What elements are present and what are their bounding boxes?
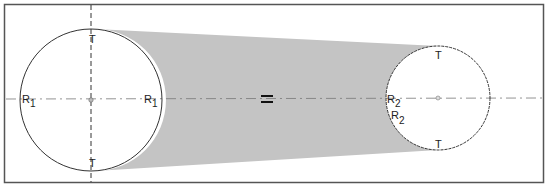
label-c1-bottom: T bbox=[89, 157, 96, 169]
svg-text:R: R bbox=[22, 93, 30, 105]
svg-text:1: 1 bbox=[152, 98, 158, 109]
svg-text:R: R bbox=[391, 109, 399, 121]
svg-text:2: 2 bbox=[395, 98, 401, 109]
svg-text:R: R bbox=[144, 93, 152, 105]
large-pulley-center bbox=[89, 98, 93, 102]
label-c1-top: T bbox=[89, 33, 96, 45]
svg-text:2: 2 bbox=[399, 115, 405, 126]
svg-text:1: 1 bbox=[30, 98, 36, 109]
svg-text:R: R bbox=[387, 93, 395, 105]
label-c2-bottom: T bbox=[435, 138, 442, 150]
small-pulley-center bbox=[436, 96, 440, 100]
belt-diagram: T T T T R 1 R 1 R 2 R 2 bbox=[0, 0, 547, 193]
label-c2-top: T bbox=[435, 49, 442, 61]
